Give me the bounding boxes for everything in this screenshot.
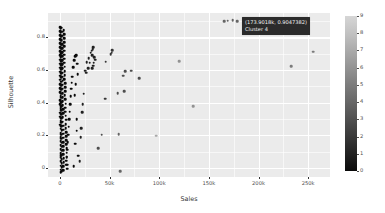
- data-point[interactable]: [223, 20, 226, 23]
- data-point[interactable]: [59, 144, 62, 147]
- data-point[interactable]: [64, 123, 67, 126]
- data-point[interactable]: [64, 82, 67, 85]
- colorbar-legend[interactable]: 0123456789: [345, 16, 357, 171]
- data-point[interactable]: [59, 132, 62, 135]
- data-point[interactable]: [87, 67, 90, 70]
- data-point[interactable]: [65, 139, 68, 142]
- data-point[interactable]: [109, 53, 112, 56]
- data-point[interactable]: [71, 75, 74, 78]
- data-point[interactable]: [59, 87, 62, 90]
- data-point[interactable]: [59, 79, 62, 82]
- data-point[interactable]: [59, 119, 62, 122]
- data-point[interactable]: [59, 91, 62, 94]
- data-point[interactable]: [81, 103, 84, 106]
- data-point[interactable]: [65, 131, 68, 134]
- data-point[interactable]: [73, 165, 76, 168]
- data-point[interactable]: [63, 37, 66, 40]
- data-point[interactable]: [59, 111, 62, 114]
- data-point[interactable]: [59, 50, 62, 53]
- data-point[interactable]: [65, 115, 68, 118]
- data-point[interactable]: [65, 147, 68, 150]
- data-point[interactable]: [73, 59, 76, 62]
- data-point[interactable]: [88, 61, 91, 64]
- data-point[interactable]: [124, 70, 127, 73]
- data-point[interactable]: [78, 160, 81, 163]
- data-point[interactable]: [66, 163, 69, 166]
- data-point[interactable]: [72, 66, 75, 69]
- data-point[interactable]: [59, 160, 62, 163]
- data-point[interactable]: [155, 135, 158, 138]
- data-point[interactable]: [68, 126, 71, 129]
- data-point[interactable]: [59, 115, 62, 118]
- data-point[interactable]: [74, 94, 77, 97]
- data-point[interactable]: [63, 53, 66, 56]
- data-point[interactable]: [68, 118, 71, 121]
- data-point[interactable]: [59, 38, 62, 41]
- data-point[interactable]: [91, 67, 94, 70]
- data-point[interactable]: [59, 58, 62, 61]
- data-point[interactable]: [59, 83, 62, 86]
- data-point[interactable]: [59, 70, 62, 73]
- data-point[interactable]: [65, 155, 68, 158]
- data-point[interactable]: [59, 42, 62, 45]
- data-point[interactable]: [81, 111, 84, 114]
- plot-panel[interactable]: [48, 13, 330, 177]
- data-point[interactable]: [97, 147, 100, 150]
- data-point[interactable]: [59, 123, 62, 126]
- data-point[interactable]: [59, 26, 62, 29]
- data-point[interactable]: [75, 54, 78, 57]
- data-point[interactable]: [64, 106, 67, 109]
- data-point[interactable]: [59, 99, 62, 102]
- data-point[interactable]: [116, 92, 119, 95]
- data-point[interactable]: [226, 19, 229, 22]
- data-point[interactable]: [84, 69, 87, 72]
- data-point[interactable]: [75, 130, 78, 133]
- data-point[interactable]: [65, 119, 68, 122]
- data-point[interactable]: [130, 69, 133, 72]
- data-point[interactable]: [59, 171, 62, 174]
- data-point[interactable]: [59, 66, 62, 69]
- data-point[interactable]: [104, 60, 107, 63]
- data-point[interactable]: [65, 143, 68, 146]
- data-point[interactable]: [192, 105, 195, 108]
- data-point[interactable]: [63, 49, 66, 52]
- data-point[interactable]: [100, 134, 103, 137]
- data-point[interactable]: [79, 136, 82, 139]
- data-point[interactable]: [64, 102, 67, 105]
- data-point[interactable]: [178, 60, 181, 63]
- plot-panel-wrapper[interactable]: [48, 13, 330, 177]
- data-point[interactable]: [59, 103, 62, 106]
- data-point[interactable]: [59, 107, 62, 110]
- data-point[interactable]: [290, 65, 293, 68]
- data-point[interactable]: [74, 143, 77, 146]
- data-point[interactable]: [59, 54, 62, 57]
- data-point[interactable]: [65, 135, 68, 138]
- data-point[interactable]: [117, 133, 120, 136]
- data-point[interactable]: [64, 127, 67, 130]
- data-point[interactable]: [71, 82, 74, 85]
- data-point[interactable]: [77, 154, 80, 157]
- data-point[interactable]: [138, 77, 141, 80]
- data-point[interactable]: [66, 151, 69, 154]
- data-point[interactable]: [59, 164, 62, 167]
- data-point[interactable]: [87, 57, 90, 60]
- data-point[interactable]: [76, 73, 79, 76]
- data-point[interactable]: [59, 140, 62, 143]
- data-point[interactable]: [59, 136, 62, 139]
- data-point[interactable]: [70, 95, 73, 98]
- data-point[interactable]: [59, 148, 62, 151]
- data-point[interactable]: [63, 66, 66, 69]
- data-point[interactable]: [122, 75, 125, 78]
- data-point[interactable]: [64, 86, 67, 89]
- data-point[interactable]: [76, 62, 79, 65]
- data-point[interactable]: [59, 95, 62, 98]
- data-point[interactable]: [104, 98, 107, 101]
- data-point[interactable]: [59, 62, 62, 65]
- data-point[interactable]: [65, 159, 68, 162]
- data-point[interactable]: [85, 61, 88, 64]
- data-point[interactable]: [59, 128, 62, 131]
- data-point[interactable]: [82, 92, 85, 95]
- data-point[interactable]: [64, 70, 67, 73]
- data-point[interactable]: [69, 103, 72, 106]
- data-point[interactable]: [66, 168, 69, 171]
